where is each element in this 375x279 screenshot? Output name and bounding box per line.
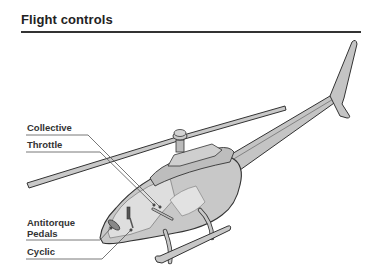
cyclic-stick-shape — [127, 207, 130, 219]
label-antitorque-pedals: Antitorque Pedals — [27, 217, 75, 239]
label-antitorque-line2: Pedals — [27, 228, 75, 239]
tail-boom — [225, 93, 342, 170]
label-cyclic: Cyclic — [27, 246, 55, 257]
tail-fin — [330, 40, 357, 118]
label-collective: Collective — [27, 122, 72, 133]
label-antitorque-line1: Antitorque — [27, 217, 75, 228]
label-throttle: Throttle — [27, 139, 62, 150]
